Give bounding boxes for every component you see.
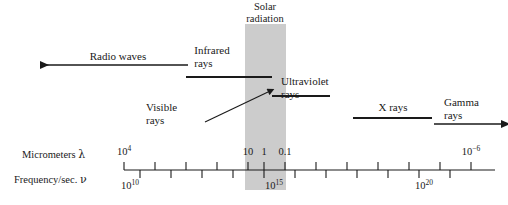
micrometer-tick-label-base: 10 [117,146,128,157]
micrometer-tick-label-base: 0.1 [278,146,291,157]
frequency-tick-label-base: 10 [415,180,426,191]
micrometer-tick-label-base: 10 [462,146,473,157]
micrometer-tick-label-exponent: 4 [127,144,131,153]
nu-symbol: ν [80,173,87,186]
gamma-rays-label-line2: rays [444,109,479,122]
solar-radiation-label-line1: Solar [246,1,283,13]
ultraviolet-rays-label: Ultraviolet rays [281,75,329,100]
frequency-tick-label: 1015 [265,180,283,193]
frequency-tick-label-exponent: 15 [276,178,284,187]
ultraviolet-rays-label-line2: rays [281,88,329,101]
solar-radiation-label-line2: radiation [246,13,283,25]
micrometer-tick-marks [124,162,471,170]
frequency-tick-label-exponent: 10 [132,178,140,187]
frequency-axis-label: Frequency/sec. ν [14,174,87,187]
micrometer-tick-label: 10 [243,146,254,159]
ultraviolet-rays-label-line1: Ultraviolet [281,75,329,88]
gamma-rays-label-line1: Gamma [444,96,479,109]
micrometer-tick-label: 1 [261,146,266,159]
visible-rays-label-line1: Visible [146,101,177,114]
frequency-tick-label: 1010 [121,180,139,193]
frequency-tick-marks [140,170,450,178]
micrometer-tick-label: 10−6 [462,146,480,159]
infrared-rays-label-line2: rays [194,57,229,70]
micrometer-tick-label-base: 1 [261,146,266,157]
visible-rays-label: Visible rays [146,101,177,126]
frequency-tick-label-base: 10 [121,180,132,191]
frequency-axis-label-text: Frequency/sec. [14,174,77,185]
micrometer-tick-label: 104 [117,146,131,159]
frequency-tick-label-exponent: 20 [426,178,434,187]
solar-radiation-label: Solar radiation [246,1,283,25]
micrometers-axis-label-text: Micrometers [22,149,76,160]
lambda-symbol: λ [78,148,85,161]
radio-waves-label-text: Radio waves [90,50,147,62]
infrared-rays-label: Infrared rays [194,44,229,69]
gamma-rays-label: Gamma rays [444,96,479,121]
infrared-rays-label-line1: Infrared [194,44,229,57]
x-rays-label: X rays [378,101,407,114]
micrometer-tick-label-base: 10 [243,146,254,157]
x-rays-label-text: X rays [378,101,407,113]
frequency-tick-label: 1020 [415,180,433,193]
frequency-tick-label-base: 10 [265,180,276,191]
micrometer-tick-label: 0.1 [278,146,291,159]
visible-rays-label-line2: rays [146,114,177,127]
micrometer-tick-label-exponent: −6 [472,144,480,153]
radio-waves-label: Radio waves [90,50,147,63]
visible-rays-leader-line [205,92,268,122]
electromagnetic-spectrum-figure: Solar radiation Radio waves Infrared ray… [0,0,508,205]
micrometers-axis-label: Micrometers λ [22,149,85,162]
